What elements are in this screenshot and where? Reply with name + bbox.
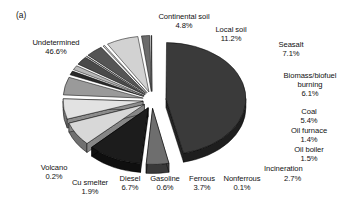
label-undetermined: Undetermined 46.6%: [8, 38, 104, 56]
label-cu-smelter-value: 1.9%: [62, 187, 118, 196]
label-oil-boiler-value: 1.5%: [276, 154, 342, 163]
label-coal-value: 5.4%: [282, 116, 336, 125]
label-oil-boiler: Oil boiler 1.5%: [276, 145, 342, 163]
label-oil-furnace-value: 1.4%: [274, 135, 344, 144]
label-oil-furnace: Oil furnace 1.4%: [274, 126, 344, 144]
label-gasoline: Gasoline 0.6%: [144, 174, 186, 192]
label-coal: Coal 5.4%: [282, 107, 336, 125]
label-local-soil-name: Local soil: [196, 25, 266, 34]
label-seasalt: Seasalt 7.1%: [258, 40, 324, 58]
label-ferrous-name: Ferrous: [180, 174, 224, 183]
label-local-soil-value: 11.2%: [196, 34, 266, 43]
label-volcano-value: 0.2%: [28, 172, 80, 181]
pie-slice-continental-soil[interactable]: [146, 108, 169, 164]
label-volcano-name: Volcano: [28, 163, 80, 172]
label-undetermined-name: Undetermined: [8, 38, 104, 47]
label-local-soil: Local soil 11.2%: [196, 25, 266, 43]
label-seasalt-value: 7.1%: [258, 49, 324, 58]
label-undetermined-value: 46.6%: [8, 47, 104, 56]
pie-chart-figure: (a) Undetermined 46.6% Continental soil …: [0, 0, 352, 215]
label-incineration: Incineration: [264, 164, 303, 173]
panel-tag: (a): [16, 10, 26, 20]
label-biomass-biofuel-burning-name: Biomass/biofuel burning: [272, 71, 348, 89]
label-oil-furnace-name: Oil furnace: [274, 126, 344, 135]
label-oil-boiler-name: Oil boiler: [276, 145, 342, 154]
label-ferrous-value: 3.7%: [180, 183, 224, 192]
label-incineration-name: Incineration: [264, 164, 303, 173]
label-incineration-value: 2.7%: [284, 174, 301, 183]
label-gasoline-value: 0.6%: [144, 183, 186, 192]
label-continental-soil-name: Continental soil: [136, 12, 232, 21]
label-ferrous: Ferrous 3.7%: [180, 174, 224, 192]
label-biomass-biofuel-burning: Biomass/biofuel burning 6.1%: [272, 71, 348, 99]
label-volcano: Volcano 0.2%: [28, 163, 80, 181]
label-incineration-value-wrap: 2.7%: [284, 174, 301, 183]
label-gasoline-name: Gasoline: [144, 174, 186, 183]
pie-slice-side: [146, 163, 169, 173]
label-coal-name: Coal: [282, 107, 336, 116]
label-seasalt-name: Seasalt: [258, 40, 324, 49]
label-biomass-biofuel-burning-value: 6.1%: [272, 89, 348, 98]
